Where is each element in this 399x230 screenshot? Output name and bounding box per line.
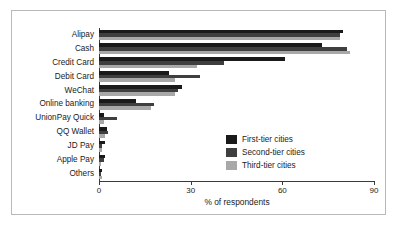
bar: [99, 120, 104, 124]
x-axis-tick: [374, 182, 375, 185]
bar: [99, 51, 350, 55]
bar-group: Online banking: [99, 98, 374, 112]
x-axis-tick-label: 30: [186, 186, 195, 195]
bar-group: Credit Card: [99, 56, 374, 70]
y-axis-tick-label: Alipay: [72, 31, 94, 39]
bar-group: Debit Card: [99, 70, 374, 84]
y-axis-tick-label: Online banking: [39, 100, 94, 108]
chart-figure: AlipayCashCredit CardDebit CardWeChatOnl…: [11, 10, 386, 215]
y-axis-tick-label: QQ Wallet: [57, 128, 94, 136]
bar: [99, 176, 102, 180]
legend-swatch-third-tier: [226, 161, 237, 170]
x-axis-tick: [282, 182, 283, 185]
bar: [99, 65, 197, 69]
bar-group: WeChat: [99, 84, 374, 98]
bar-group: Cash: [99, 42, 374, 56]
bar: [99, 92, 175, 96]
x-axis-tick-label: 90: [370, 186, 379, 195]
y-axis-tick-label: Credit Card: [52, 59, 94, 67]
bar: [99, 106, 151, 110]
bar: [99, 134, 105, 138]
legend-item[interactable]: Second-tier cities: [226, 146, 305, 159]
legend-item[interactable]: Third-tier cities: [226, 159, 305, 172]
y-axis-tick-label: JD Pay: [68, 142, 94, 150]
y-axis-tick-label: Apple Pay: [57, 156, 94, 164]
y-axis-tick-label: Cash: [75, 45, 94, 53]
y-axis-tick-label: Debit Card: [55, 73, 94, 81]
y-axis-tick-label: WeChat: [65, 86, 94, 94]
bar: [99, 78, 175, 82]
bar: [99, 162, 101, 166]
legend-item[interactable]: First-tier cities: [226, 133, 305, 146]
legend-swatch-second-tier: [226, 148, 237, 157]
x-axis-title: % of respondents: [99, 197, 375, 207]
legend-label-first-tier: First-tier cities: [242, 135, 293, 144]
bar: [99, 37, 340, 41]
x-axis-tick-label: 0: [97, 186, 101, 195]
x-axis-tick-label: 60: [278, 186, 287, 195]
x-axis-tick: [99, 182, 100, 185]
bar-group: Alipay: [99, 28, 374, 42]
bar-group: UnionPay Quick: [99, 111, 374, 125]
legend-label-second-tier: Second-tier cities: [242, 148, 305, 157]
y-axis-tick-label: UnionPay Quick: [35, 114, 94, 122]
legend-label-third-tier: Third-tier cities: [242, 161, 296, 170]
chart-legend: First-tier cities Second-tier cities Thi…: [226, 133, 305, 172]
bar: [99, 148, 102, 152]
y-axis-tick-label: Others: [69, 170, 94, 178]
x-axis-tick: [191, 182, 192, 185]
legend-swatch-first-tier: [226, 135, 237, 144]
x-axis-line: [99, 181, 375, 182]
